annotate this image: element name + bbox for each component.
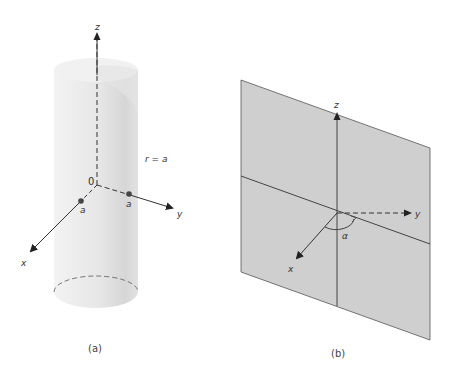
y-label-a: y — [176, 209, 183, 219]
point-a-x — [78, 198, 84, 204]
panel-b: z y x α (b) — [241, 80, 430, 359]
figure: z x y a a 0 r = a (a) z y x α (b) — [0, 0, 454, 384]
point-x-label: a — [80, 205, 86, 215]
z-label-b: z — [333, 100, 339, 110]
panel-a: z x y a a 0 r = a (a) — [20, 22, 183, 354]
radius-label: r = a — [145, 154, 167, 164]
alpha-label: α — [342, 231, 348, 241]
x-label-b: x — [287, 264, 294, 274]
x-label-a: x — [20, 258, 27, 268]
point-a-y — [126, 191, 132, 197]
point-y-label: a — [126, 199, 132, 209]
z-label-a: z — [94, 22, 100, 32]
caption-a: (a) — [88, 343, 102, 354]
origin-label: 0 — [88, 176, 94, 187]
y-label-b: y — [414, 209, 421, 219]
caption-b: (b) — [331, 348, 345, 359]
cylinder — [54, 58, 138, 308]
